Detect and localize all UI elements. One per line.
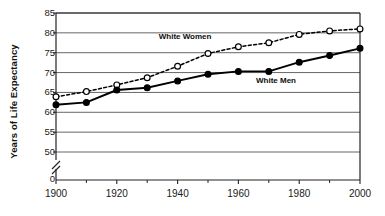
data-point-white-women: [175, 63, 181, 69]
data-point-white-women: [266, 40, 272, 46]
series-label-white-women: White Women: [159, 32, 212, 41]
data-point-white-men: [266, 69, 272, 75]
data-point-white-women: [327, 28, 333, 34]
data-point-white-men: [175, 78, 181, 84]
x-axis-tick-label: 1980: [279, 188, 319, 199]
data-point-white-women: [236, 44, 242, 50]
y-axis-tick-label: 70: [33, 68, 55, 78]
data-point-white-men: [144, 85, 150, 91]
series-label-white-men: White Men: [256, 76, 296, 85]
data-point-white-men: [205, 71, 211, 77]
data-point-white-women: [144, 75, 150, 81]
y-axis-tick-label: 60: [33, 107, 55, 117]
x-axis-tick-label: 1920: [97, 188, 137, 199]
data-point-white-men: [236, 69, 242, 75]
y-axis-tick-label: 75: [33, 48, 55, 58]
data-point-white-women: [205, 51, 211, 57]
y-axis-tick-label: 50: [33, 147, 55, 157]
data-point-white-women: [84, 89, 90, 95]
data-point-white-women: [296, 32, 302, 38]
life-expectancy-chart: Years of Life Expectancy 505560657075808…: [0, 0, 385, 216]
x-axis-tick-label: 1900: [36, 188, 76, 199]
y-axis-title: Years of Life Expectancy: [8, 27, 19, 177]
x-axis-tick-label: 1940: [158, 188, 198, 199]
y-axis-zero-label: 0: [33, 174, 55, 184]
y-axis-tick-label: 85: [33, 8, 55, 18]
data-point-white-men: [296, 59, 302, 65]
data-point-white-men: [114, 87, 120, 93]
y-axis-tick-label: 80: [33, 28, 55, 38]
data-point-white-women: [357, 26, 363, 32]
data-point-white-men: [84, 100, 90, 106]
data-point-white-men: [357, 45, 363, 51]
data-point-white-men: [327, 53, 333, 59]
x-axis-tick-label: 2000: [340, 188, 380, 199]
y-axis-tick-label: 55: [33, 127, 55, 137]
x-axis-tick-label: 1960: [218, 188, 258, 199]
y-axis-tick-label: 65: [33, 87, 55, 97]
y-axis-tick-labels: 50556065707580850: [30, 0, 55, 216]
